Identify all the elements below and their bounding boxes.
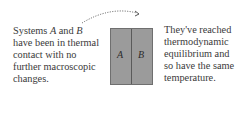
right-caption-line-1: They've reached: [164, 24, 234, 36]
system-b-label: B: [138, 49, 144, 60]
right-caption-line-2: thermodynamic: [164, 36, 234, 48]
left-caption: Systems A and B have been in thermal con…: [13, 25, 99, 85]
left-caption-line-4: further macroscopic: [13, 61, 99, 73]
left-caption-line-3: contact with no: [13, 49, 99, 61]
left-caption-line-1: Systems A and B: [13, 25, 99, 37]
left-caption-line-5: changes.: [13, 73, 99, 85]
right-caption: They've reached thermodynamic equilibriu…: [164, 24, 234, 84]
right-caption-line-5: temperature.: [164, 72, 234, 84]
systems-box: A B: [110, 28, 153, 85]
left-caption-line-2: have been in thermal: [13, 37, 99, 49]
right-caption-line-3: equilibrium and: [164, 48, 234, 60]
right-caption-line-4: so have the same: [164, 60, 234, 72]
thermal-contact-wall: [131, 29, 132, 84]
system-a-label: A: [117, 49, 123, 60]
